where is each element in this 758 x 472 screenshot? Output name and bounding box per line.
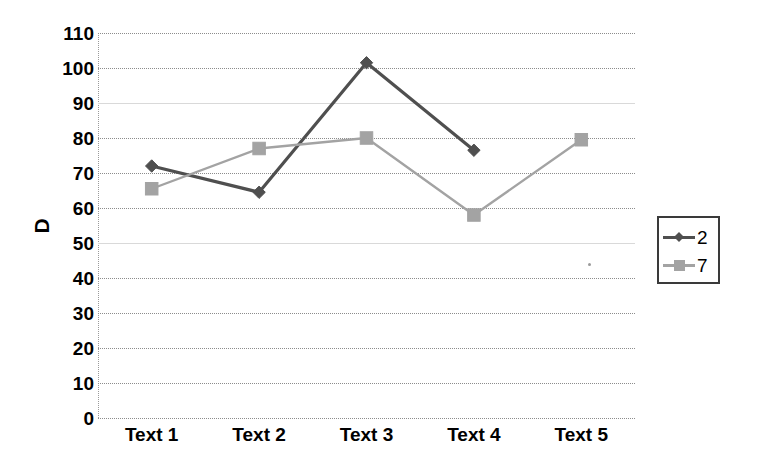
diamond-marker-icon xyxy=(146,160,158,172)
legend-swatch-7 xyxy=(662,256,696,274)
diamond-marker-icon xyxy=(674,232,684,237)
x-axis-line xyxy=(98,418,635,419)
series-line-7 xyxy=(152,138,582,215)
y-axis-tick: 50 xyxy=(48,234,94,253)
x-axis-tick-labels: Text 1Text 2Text 3Text 4Text 5 xyxy=(98,424,635,454)
chart-legend: 27 xyxy=(657,216,720,284)
y-axis-tick: 90 xyxy=(48,94,94,113)
plot-area xyxy=(98,33,635,418)
legend-item-7[interactable]: 7 xyxy=(659,252,718,278)
y-axis-tick: 70 xyxy=(48,164,94,183)
y-axis-tick-labels: 1101009080706050403020100 xyxy=(48,0,94,472)
square-marker-icon xyxy=(145,183,158,196)
x-axis-tick: Text 5 xyxy=(521,424,641,447)
legend-item-2[interactable]: 2 xyxy=(659,224,718,250)
diamond-marker-lower xyxy=(674,237,684,242)
y-axis-tick: 110 xyxy=(48,24,94,43)
series-line-2 xyxy=(152,63,474,193)
x-axis-tick: Text 4 xyxy=(414,424,534,447)
legend-label: 7 xyxy=(697,256,708,275)
square-marker-icon xyxy=(253,142,266,155)
square-marker-icon xyxy=(468,209,481,222)
y-axis-tick: 30 xyxy=(48,304,94,323)
x-axis-tick: Text 2 xyxy=(199,424,319,447)
y-axis-tick: 10 xyxy=(48,374,94,393)
square-marker-icon xyxy=(674,260,685,271)
x-axis-tick: Text 3 xyxy=(307,424,427,447)
series-layer xyxy=(98,33,635,418)
y-axis-tick: 0 xyxy=(48,409,94,428)
x-axis-tick: Text 1 xyxy=(92,424,212,447)
legend-swatch-2 xyxy=(662,228,696,246)
y-axis-tick: 20 xyxy=(48,339,94,358)
legend-label: 2 xyxy=(697,228,708,247)
y-axis-tick: 80 xyxy=(48,129,94,148)
square-marker-icon xyxy=(575,134,588,147)
y-axis-tick: 100 xyxy=(48,59,94,78)
square-marker-icon xyxy=(360,132,373,145)
stray-speck xyxy=(588,263,591,266)
line-chart: D 1101009080706050403020100 Text 1Text 2… xyxy=(0,0,758,472)
y-axis-tick: 60 xyxy=(48,199,94,218)
y-axis-tick: 40 xyxy=(48,269,94,288)
